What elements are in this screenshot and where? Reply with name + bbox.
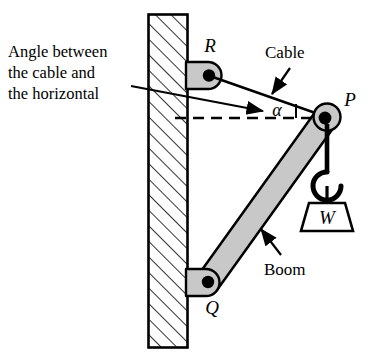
weight-label: W [319, 207, 337, 228]
point-label-p: P [343, 89, 356, 110]
pivot-p [319, 112, 332, 125]
boom-annotation: Boom [261, 229, 306, 279]
point-label-q: Q [205, 297, 219, 318]
wall [149, 15, 188, 348]
cable-annotation: Cable [265, 43, 305, 94]
cable-leader-arrow-icon [272, 68, 290, 94]
support-bracket-r [186, 62, 222, 89]
boom-member [208, 119, 325, 282]
diagram-canvas: W R P Q α Angle between the cable and th… [0, 0, 388, 356]
boom-label: Boom [264, 260, 306, 279]
angle-annotation: Angle between the cable and the horizont… [8, 42, 263, 111]
pivot-q [202, 276, 214, 288]
boom-leader-arrow-icon [261, 229, 281, 255]
angle-note-line-2: the cable and [8, 63, 96, 82]
support-bracket-q [186, 269, 219, 296]
angle-note-line-1: Angle between [8, 42, 107, 61]
angle-label-alpha: α [272, 100, 282, 120]
wall-hatch-fill [149, 15, 188, 348]
cable-line [210, 76, 324, 116]
pivot-r [203, 69, 215, 81]
angle-note-line-3: the horizontal [8, 84, 100, 103]
cable-label: Cable [265, 43, 305, 62]
point-label-r: R [203, 35, 216, 56]
boom-fill [208, 119, 325, 282]
crane-diagram-svg: W R P Q α Angle between the cable and th… [0, 0, 388, 356]
